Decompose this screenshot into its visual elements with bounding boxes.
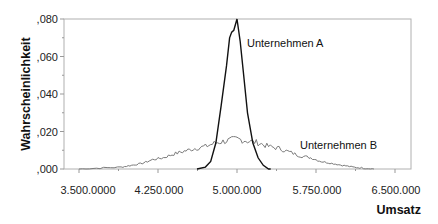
x-tick-label: 5.750.000 [293,184,342,196]
x-tick-label: 6.500.000 [372,184,421,196]
x-axis-title: Umsatz [377,203,421,217]
y-tick-labels: ,080 ,060 ,040 ,020 ,000 [37,13,58,175]
x-tick-label: 5.000.000 [213,184,262,196]
y-axis-title: Wahrscheinlichkeit [19,36,33,150]
series-label-unternehmen-b: Unternehmen B [300,139,377,151]
x-tick-labels: 3.500.0000 4.250.000 5.000.000 5.750.000… [60,184,420,196]
y-tick-label: ,060 [37,51,58,63]
x-tick-label: 4.250.000 [135,184,184,196]
x-axis [79,169,395,173]
y-tick-label: ,000 [37,163,58,175]
x-tick-label: 3.500.0000 [60,184,115,196]
y-tick-label: ,040 [37,88,58,100]
y-axis [60,19,64,169]
y-tick-label: ,020 [37,126,58,138]
series-label-unternehmen-a: Unternehmen A [247,37,324,49]
y-tick-label: ,080 [37,13,58,25]
probability-chart: ,080 ,060 ,040 ,020 ,000 3.500.0000 4.25… [0,0,438,224]
